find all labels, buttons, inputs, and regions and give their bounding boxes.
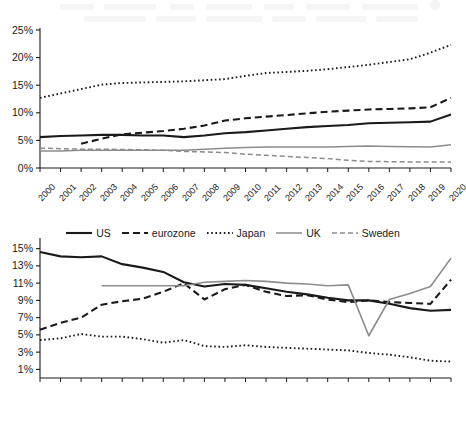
chart-advanced-economies: 0%5%10%15%20%25% 20002001200220032004200… [0, 22, 466, 212]
y-tick-label: 15% [12, 242, 33, 254]
y-tick-label: 3% [18, 346, 33, 358]
y-tick-label: 15% [12, 79, 33, 91]
y-tick-label: 11% [13, 277, 33, 289]
y-tick-label: 7% [18, 311, 33, 323]
y-tick-label: 25% [12, 24, 33, 36]
y-tick-label: 5% [18, 134, 33, 146]
y-tick-label: 0% [18, 162, 33, 174]
series-line-eurozone [81, 98, 451, 144]
x-axis-labels-1: 2000200120022003200420052006200720082009… [0, 190, 466, 232]
line-chart-svg-1: 0%5%10%15%20%25% [0, 22, 466, 187]
line-chart-svg-2: 1%3%5%7%9%11%13%15% [0, 232, 466, 397]
y-tick-label: 1% [18, 363, 33, 375]
y-tick-label: 9% [18, 294, 33, 306]
series-line-kenya [40, 334, 451, 362]
y-tick-label: 13% [12, 259, 33, 271]
plot-area-2: 1%3%5%7%9%11%13%15% [0, 232, 466, 392]
figure-page: 0%5%10%15%20%25% 20002001200220032004200… [0, 0, 466, 446]
series-line-japan [40, 45, 451, 98]
y-tick-label: 10% [12, 106, 33, 118]
series-line-uk [40, 145, 451, 151]
y-tick-label: 5% [18, 328, 33, 340]
y-tick-label: 20% [12, 51, 33, 63]
plot-area-1: 0%5%10%15%20%25% [0, 22, 466, 182]
chart-emerging-economies: 1%3%5%7%9%11%13%15% 20002001200220032004… [0, 232, 466, 422]
